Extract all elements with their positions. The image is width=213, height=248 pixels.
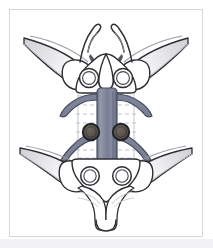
facet-opening-lower-right [113, 167, 132, 186]
facet-opening-lower-left [81, 167, 100, 186]
bottom-band [0, 239, 213, 248]
facet-opening-upper-right [114, 69, 133, 88]
figure-card: Vertebra with spinal cord and nerve root… [9, 9, 203, 237]
foramen-right [113, 124, 129, 140]
facet-opening-upper-left [80, 69, 99, 88]
screenshot-root: Vertebra with spinal cord and nerve root… [0, 0, 213, 248]
foramen-left [83, 124, 99, 140]
anatomy-illustration: Vertebra with spinal cord and nerve root… [10, 10, 202, 236]
